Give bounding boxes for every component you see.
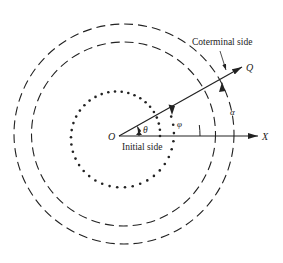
coterminal-side-label: Coterminal side xyxy=(192,37,252,47)
coterminal-angle-diagram: O X Q Initial side Coterminal side θ φ α xyxy=(0,0,283,263)
phi-spiral xyxy=(70,90,176,188)
initial-side-label: Initial side xyxy=(122,142,162,152)
q-label: Q xyxy=(246,62,254,73)
outer-dashed-circle xyxy=(14,24,234,244)
phi-label: φ xyxy=(177,119,182,129)
theta-arc-start-arrow xyxy=(136,131,142,135)
x-axis-label: X xyxy=(261,131,269,142)
theta-label: θ xyxy=(143,125,148,135)
coterminal-leader xyxy=(220,51,226,70)
alpha-label: α xyxy=(230,107,235,117)
intermediate-arc xyxy=(199,125,200,136)
alpha-arrowhead xyxy=(219,82,226,92)
origin-label: O xyxy=(108,131,115,142)
